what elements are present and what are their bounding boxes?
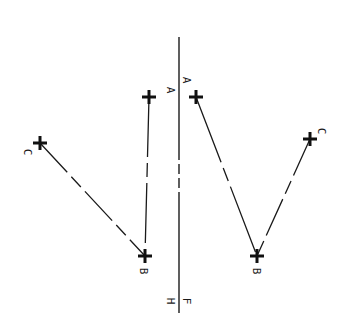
left-point-c-label: C — [21, 149, 34, 156]
fold-label-top-left: A — [164, 87, 177, 94]
right-point-a-cross-icon — [189, 90, 203, 104]
right-view: C B — [189, 90, 328, 275]
left-line-a-b — [145, 97, 149, 256]
left-view: C B — [21, 90, 156, 275]
right-line-a-b — [196, 97, 257, 256]
fold-label-bottom-left: H — [164, 298, 177, 305]
right-point-b-cross-icon — [250, 249, 264, 263]
descriptive-geometry-diagram: A A H F C B — [0, 0, 346, 331]
fold-label-bottom-right: F — [180, 298, 193, 305]
right-line-c-b — [257, 139, 310, 256]
right-point-c-label: C — [315, 128, 328, 135]
left-line-c-b — [40, 143, 145, 256]
left-point-b-label: B — [137, 268, 150, 275]
right-point-c-cross-icon — [303, 132, 317, 146]
right-point-b-label: B — [250, 268, 263, 275]
fold-label-top-right: A — [180, 77, 193, 84]
left-point-a-cross-icon — [142, 90, 156, 104]
